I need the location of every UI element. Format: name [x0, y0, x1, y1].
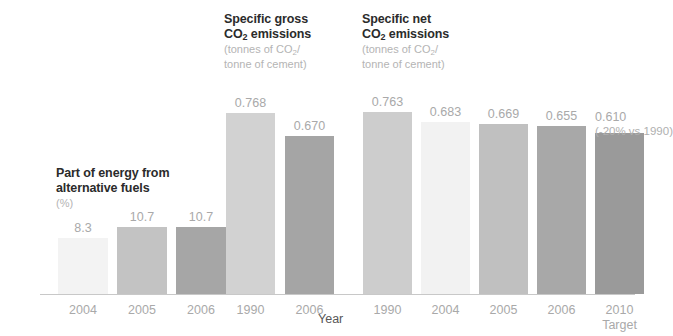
bar-value-2006-net-co2: 0.655 [537, 109, 586, 123]
tick-label-2010-net: 2010 [595, 303, 644, 317]
group-title-line-2: CO2 emissions [362, 27, 449, 41]
tick-label-2005: 2005 [117, 303, 167, 317]
group-title-line-2: CO2 emissions [224, 27, 311, 41]
group-title-specific-gross-co2: Specific gross CO2 emissions [224, 12, 311, 42]
axis-line-group-2 [209, 294, 351, 295]
co2-subscript: 2 [243, 32, 248, 42]
bar-value-2004-net-co2: 0.683 [421, 105, 470, 119]
bar-1990-net-co2[interactable] [363, 112, 412, 294]
axis-title-year: Year [318, 312, 343, 326]
group-unit-specific-net-co2: (tonnes of CO2/ tonne of cement) [362, 43, 445, 71]
group-unit-line-2: tonne of cement) [362, 58, 445, 70]
bar-2004-net-co2[interactable] [421, 122, 470, 294]
bar-2005-net-co2[interactable] [479, 124, 528, 294]
bar-value-2005-net-co2: 0.669 [479, 107, 528, 121]
tick-label-1990-gross: 1990 [226, 303, 275, 317]
group-unit-line-1: (%) [56, 197, 73, 209]
bar-value-2005-alt-fuels: 10.7 [117, 210, 167, 224]
emissions-text: emissions [385, 27, 449, 41]
bar-2010-target-net-co2[interactable] [595, 133, 644, 294]
bar-value-2006-alt-fuels: 10.7 [176, 210, 226, 224]
group-unit-specific-gross-co2: (tonnes of CO2/ tonne of cement) [224, 43, 307, 71]
emissions-text: emissions [247, 27, 311, 41]
bar-2005-alt-fuels[interactable] [117, 227, 167, 294]
bar-2006-alt-fuels[interactable] [176, 227, 226, 294]
group-title-line-1: Specific net [362, 12, 431, 26]
group-title-line-1: Specific gross [224, 12, 308, 26]
tick-label-2004: 2004 [58, 303, 108, 317]
group-unit-line-1: (tonnes of CO2/ [224, 43, 300, 55]
unit-text: (tonnes of CO [224, 43, 292, 55]
group-title-specific-net-co2: Specific net CO2 emissions [362, 12, 449, 42]
tick-label-2005-net: 2005 [479, 303, 528, 317]
tick-label-1990-net: 1990 [363, 303, 412, 317]
bar-value-1990-net-co2: 0.763 [363, 95, 412, 109]
co2-text: CO [224, 27, 243, 41]
bar-value-1990-gross-co2: 0.768 [226, 96, 275, 110]
tick-label-2006-net: 2006 [537, 303, 586, 317]
co2-subscript: 2 [381, 32, 386, 42]
bar-note-2010-target: (-20% vs 1990) [595, 125, 673, 137]
group-title-alternative-fuels: Part of energy from alternative fuels [56, 166, 169, 195]
bar-2006-gross-co2[interactable] [285, 136, 334, 294]
group-unit-line-1: (tonnes of CO2/ [362, 43, 438, 55]
co2-text: CO [362, 27, 381, 41]
group-title-line-1: Part of energy from [56, 166, 169, 180]
group-title-line-2: alternative fuels [56, 181, 149, 195]
group-unit-line-2: tonne of cement) [224, 58, 307, 70]
tick-sublabel-2010-target: Target [595, 318, 644, 332]
tick-label-2004-net: 2004 [421, 303, 470, 317]
axis-line-group-3 [348, 294, 635, 295]
unit-text: (tonnes of CO [362, 43, 430, 55]
group-unit-alternative-fuels: (%) [56, 197, 73, 211]
bar-value-2010-target-net-co2: 0.610 [595, 110, 644, 124]
tick-label-2006: 2006 [176, 303, 226, 317]
co2-subscript: 2 [430, 48, 434, 57]
co2-subscript: 2 [292, 48, 296, 57]
bar-2004-alt-fuels[interactable] [58, 238, 108, 294]
bar-value-2004-alt-fuels: 8.3 [58, 221, 108, 235]
bar-1990-gross-co2[interactable] [226, 113, 275, 294]
unit-slash: / [435, 43, 438, 55]
bar-value-2006-gross-co2: 0.670 [285, 119, 334, 133]
bar-2006-net-co2[interactable] [537, 126, 586, 294]
unit-slash: / [297, 43, 300, 55]
